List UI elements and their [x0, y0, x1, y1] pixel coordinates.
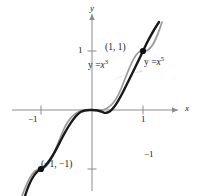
y-axis: [89, 14, 95, 191]
point-marker-upper: [140, 48, 146, 54]
tick-label-x-neg1: −1: [28, 115, 38, 124]
tick-label-x-1: 1: [141, 115, 146, 124]
curve-label-cubic-exponent: 3: [105, 58, 108, 65]
y-axis-label: y: [90, 4, 94, 13]
curve-label-quintic-exponent: 5: [161, 55, 164, 62]
curve-label-quintic-lhs: y =: [144, 57, 156, 67]
x-axis-label: x: [185, 104, 189, 113]
graph-figure: y x 1 −1 −1 1 (1, 1) (−1, −1) y =x3 y =x…: [0, 0, 198, 196]
point-label-lower: (−1, −1): [41, 160, 72, 170]
tick-label-y-1: 1: [78, 46, 83, 55]
curve-label-quintic: y =x5: [144, 56, 164, 68]
tick-label-y-neg1: −1: [144, 150, 154, 159]
curve-label-cubic: y =x3: [88, 59, 108, 71]
point-label-upper: (1, 1): [105, 43, 126, 53]
plot-canvas: [0, 0, 198, 196]
curve-label-cubic-lhs: y =: [88, 60, 100, 70]
